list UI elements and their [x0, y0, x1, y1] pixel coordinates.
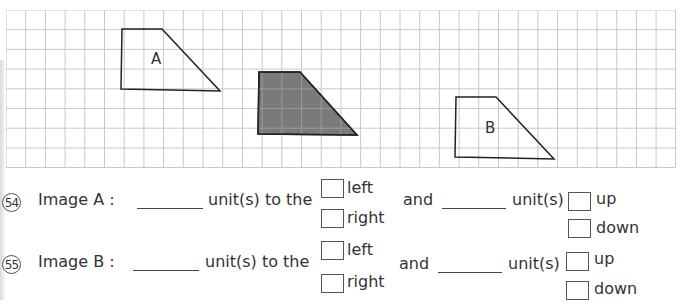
and-text: and [399, 254, 429, 273]
figure-a [121, 29, 220, 91]
down-checkbox[interactable] [566, 281, 589, 300]
left-label: left [347, 240, 373, 259]
unit-text: unit(s) [508, 254, 560, 273]
horizontal-units-blank[interactable] [133, 270, 199, 271]
image-label: Image A : [38, 190, 115, 209]
right-checkbox[interactable] [321, 209, 344, 228]
grid-paper: AB [6, 10, 676, 168]
down-label: down [594, 279, 637, 298]
up-label: up [594, 249, 614, 268]
unit-text: unit(s) to the [208, 190, 312, 209]
unit-text: unit(s) to the [205, 252, 309, 271]
figure-shaded [258, 72, 357, 135]
grid-lines [6, 10, 676, 168]
unit-text: unit(s) [512, 190, 564, 209]
right-label: right [347, 272, 385, 291]
figure-label: B [485, 119, 495, 137]
vertical-units-blank[interactable] [442, 208, 506, 209]
vertical-units-blank[interactable] [438, 272, 502, 273]
left-checkbox[interactable] [321, 241, 344, 260]
question-number: 55 [2, 255, 21, 274]
down-label: down [596, 218, 639, 237]
up-checkbox[interactable] [566, 252, 589, 271]
left-label: left [347, 178, 373, 197]
horizontal-units-blank[interactable] [137, 208, 203, 209]
down-checkbox[interactable] [568, 219, 591, 238]
figure-label: A [151, 50, 162, 68]
left-checkbox[interactable] [321, 179, 344, 198]
image-label: Image B : [38, 252, 115, 271]
up-label: up [596, 189, 616, 208]
question-number: 54 [2, 193, 21, 212]
and-text: and [403, 190, 433, 209]
right-label: right [347, 208, 385, 227]
up-checkbox[interactable] [568, 192, 591, 211]
right-checkbox[interactable] [321, 274, 344, 293]
